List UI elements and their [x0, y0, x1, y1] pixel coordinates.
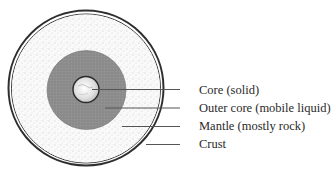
mantle-label: Mantle (mostly rock): [199, 119, 305, 133]
core-label: Core (solid): [199, 83, 259, 97]
crust-label: Crust: [199, 137, 226, 151]
outer-core-label: Outer core (mobile liquid): [199, 101, 331, 115]
